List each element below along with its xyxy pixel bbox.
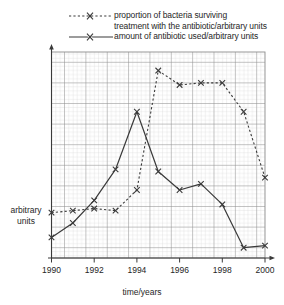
- legend-label-bacteria-line2: treatment with the antibiotic/arbitrary …: [114, 21, 267, 32]
- legend-entry-bacteria: proportion of bacteria surviving: [68, 10, 282, 21]
- legend-label-antibiotic-line1: amount of antibiotic used/arbitrary unit…: [114, 31, 258, 42]
- chart-legend: proportion of bacteria surviving treatme…: [68, 10, 282, 42]
- legend-label-bacteria-line1: proportion of bacteria surviving: [114, 10, 227, 21]
- x-tick-label-1994: 1994: [122, 265, 152, 275]
- x-tick-label-1990: 1990: [37, 265, 67, 275]
- x-tick-label-1992: 1992: [79, 265, 109, 275]
- antibiotic-resistance-chart: [0, 0, 284, 305]
- y-axis-label: arbitrary units: [3, 205, 49, 227]
- legend-solid-line-icon: [68, 31, 114, 42]
- x-tick-label-1998: 1998: [207, 265, 237, 275]
- x-axis-label: time/years: [0, 287, 284, 297]
- y-axis-label-line2: units: [3, 216, 49, 227]
- x-tick-label-2000: 2000: [250, 265, 280, 275]
- y-axis-label-line1: arbitrary: [3, 205, 49, 216]
- legend-entry-antibiotic: amount of antibiotic used/arbitrary unit…: [68, 31, 282, 42]
- x-tick-label-1996: 1996: [165, 265, 195, 275]
- legend-dotted-line-icon: [68, 10, 114, 21]
